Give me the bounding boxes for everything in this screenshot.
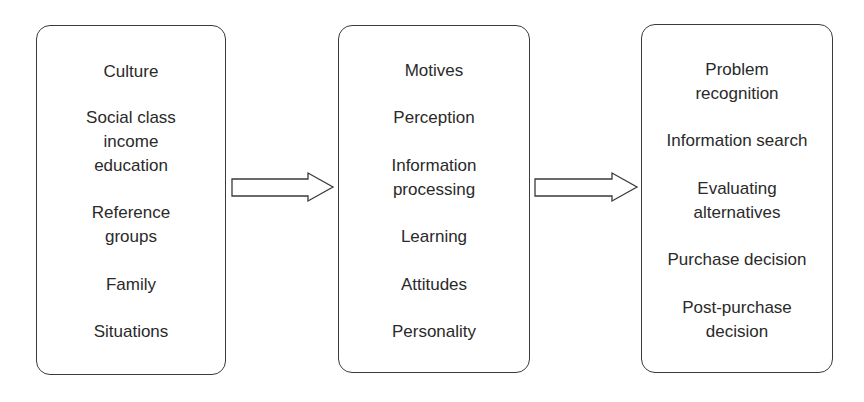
item-evaluating: Evaluating (642, 177, 832, 201)
item-personality: Personality (339, 320, 529, 344)
item-post-purchase-decision: decision (642, 320, 832, 344)
item-reference: Reference (37, 201, 225, 225)
item-recognition: recognition (642, 82, 832, 106)
influences-box: Culture Social class income education Re… (36, 25, 226, 375)
item-situations: Situations (37, 320, 225, 344)
item-information-search: Information search (642, 129, 832, 153)
item-social-class: Social class (37, 106, 225, 130)
item-information: Information (339, 154, 529, 178)
right-arrow-icon (533, 170, 641, 206)
item-purchase-decision: Purchase decision (642, 248, 832, 272)
item-perception: Perception (339, 106, 529, 130)
right-arrow-icon (230, 170, 338, 206)
item-alternatives: alternatives (642, 201, 832, 225)
decision-process-box: Problem recognition Information search E… (641, 24, 833, 373)
item-income: income (37, 130, 225, 154)
item-problem: Problem (642, 58, 832, 82)
psychological-box: Motives Perception Information processin… (338, 25, 530, 373)
item-groups: groups (37, 225, 225, 249)
item-motives: Motives (339, 59, 529, 83)
item-education: education (37, 154, 225, 178)
item-processing: processing (339, 178, 529, 202)
item-attitudes: Attitudes (339, 273, 529, 297)
item-learning: Learning (339, 225, 529, 249)
item-culture: Culture (37, 60, 225, 84)
item-post-purchase: Post-purchase (642, 296, 832, 320)
item-family: Family (37, 273, 225, 297)
